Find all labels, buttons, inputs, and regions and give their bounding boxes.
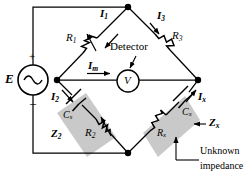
current-arrow-i3	[150, 23, 159, 34]
zx-subscript: x	[216, 121, 220, 130]
cs-letter: C	[63, 109, 70, 120]
r2-letter: R	[85, 126, 92, 138]
im-subscript: m	[92, 64, 98, 73]
r1-subscript: 1	[73, 36, 77, 45]
cs-subscript: s	[70, 113, 73, 120]
z2-subscript: 2	[58, 132, 62, 141]
ix-subscript: x	[202, 95, 206, 104]
r3-letter: R	[172, 29, 179, 41]
unknown-impedance-line1: Unknown	[200, 146, 239, 156]
cx-letter: C	[182, 106, 189, 117]
ac-source-symbol	[18, 65, 48, 95]
unknown-impedance-line2: impedance	[200, 161, 243, 171]
component-label-r2: R2	[85, 127, 95, 139]
component-label-cx: Cx	[182, 107, 192, 118]
i1-subscript: 1	[104, 12, 108, 21]
z2-letter: Z	[51, 127, 58, 139]
ac-bridge-circuit-figure: E + – Detector V R1 R3 Cs R2 Rx Cx I1 I3…	[0, 0, 245, 177]
source-minus-sign: –	[30, 97, 36, 109]
current-label-ix: Ix	[198, 91, 206, 103]
zx-letter: Z	[209, 116, 216, 128]
r2-subscript: 2	[92, 131, 96, 140]
impedance-label-zx: Zx	[209, 117, 219, 129]
source-plus-sign: +	[29, 51, 35, 62]
current-arrow-i2	[62, 90, 73, 102]
current-label-i1: I1	[100, 8, 108, 20]
node-right	[195, 77, 201, 83]
rx-subscript: x	[163, 131, 166, 138]
unknown-impedance-leader	[176, 137, 199, 160]
current-label-i3: I3	[157, 10, 165, 22]
current-label-i2: I2	[51, 91, 59, 103]
component-label-rx: Rx	[157, 128, 166, 139]
node-top	[125, 4, 131, 10]
current-arrow-ix	[186, 90, 196, 102]
impedance-shade-zx	[143, 96, 200, 157]
i2-subscript: 2	[55, 95, 59, 104]
component-label-cs: Cs	[63, 110, 72, 121]
detector-caption: Detector	[110, 41, 148, 52]
component-label-r1: R1	[66, 32, 76, 44]
i3-subscript: 3	[161, 14, 165, 23]
source-label: E	[5, 72, 14, 85]
node-left	[54, 77, 60, 83]
impedance-label-z2: Z2	[51, 128, 61, 140]
current-label-im: Im	[88, 60, 98, 72]
r1-letter: R	[66, 31, 73, 43]
node-bottom	[125, 150, 131, 156]
cx-subscript: x	[189, 110, 192, 117]
detector-meter-label: V	[124, 75, 131, 86]
r3-subscript: 3	[179, 34, 183, 43]
component-label-r3: R3	[172, 30, 182, 42]
detector-callout-arrow	[130, 56, 136, 68]
